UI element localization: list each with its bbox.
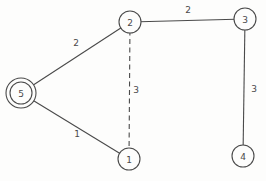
- graph-canvas: 1234522313: [0, 0, 266, 181]
- graph-edge-3-4-weight-label: 3: [251, 84, 257, 94]
- graph-node-4-label: 4: [240, 152, 246, 162]
- graph-edge-5-2-weight-label: 2: [73, 38, 79, 48]
- graph-edge-2-1-weight-label: 3: [133, 85, 139, 95]
- graph-edge-5-1: [21, 93, 129, 159]
- graph-edge-2-1: [129, 22, 130, 159]
- graph-node-3-label: 3: [242, 15, 248, 25]
- graph-node-5-label: 5: [18, 89, 24, 99]
- graph-edge-5-1-weight-label: 1: [74, 129, 80, 139]
- graph-node-2-label: 2: [127, 18, 133, 28]
- graph-edge-2-3: [130, 19, 245, 22]
- graph-figure: 1234522313: [0, 0, 266, 181]
- graph-edge-5-2: [21, 22, 130, 93]
- graph-edge-3-4: [243, 19, 245, 156]
- graph-edge-2-3-weight-label: 2: [185, 5, 191, 15]
- graph-node-1-label: 1: [126, 155, 132, 165]
